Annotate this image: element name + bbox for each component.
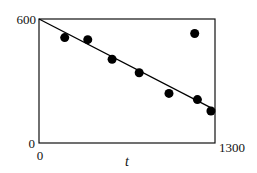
data-point	[60, 33, 69, 42]
chart-canvas: 600 0 0 1300 t	[0, 0, 257, 173]
y-axis-min-label: 0	[29, 136, 36, 151]
scatter-chart: 600 0 0 1300 t	[0, 0, 257, 173]
data-point	[206, 106, 215, 115]
data-point	[190, 29, 199, 38]
x-axis-min-label: 0	[37, 148, 44, 163]
data-point	[164, 89, 173, 98]
fit-line	[39, 19, 215, 110]
x-axis-title: t	[125, 154, 130, 169]
data-point	[135, 68, 144, 77]
data-point	[83, 35, 92, 44]
y-axis-max-label: 600	[17, 12, 37, 27]
data-point	[108, 55, 117, 64]
x-axis-max-label: 1300	[219, 140, 245, 155]
data-point	[193, 95, 202, 104]
regression-line	[39, 19, 215, 110]
